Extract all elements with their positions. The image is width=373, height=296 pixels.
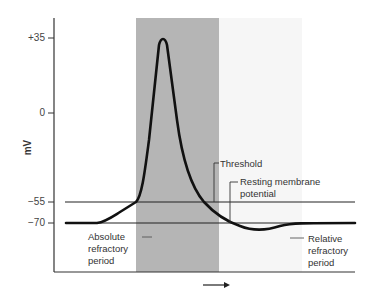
tick-label-55: −55	[15, 196, 45, 207]
relative-refractory-band	[219, 18, 302, 272]
resting-potential-label-1: Resting membrane	[240, 176, 320, 187]
relative-refractory-label-1: Relative	[308, 233, 342, 244]
absolute-refractory-label-3: period	[88, 255, 114, 266]
tick-label-0: 0	[15, 107, 45, 118]
tick-label-70: −70	[15, 217, 45, 228]
y-axis-label: mV	[22, 140, 33, 156]
time-arrow-head	[224, 282, 230, 288]
absolute-refractory-label-2: refractory	[88, 243, 128, 254]
tick-label-35: +35	[15, 32, 45, 43]
absolute-refractory-label-1: Absolute	[88, 231, 125, 242]
resting-potential-label-2: potential	[240, 188, 276, 199]
relative-refractory-label-3: period	[308, 257, 334, 268]
threshold-label: Threshold	[220, 158, 262, 169]
relative-refractory-label-2: refractory	[308, 245, 348, 256]
